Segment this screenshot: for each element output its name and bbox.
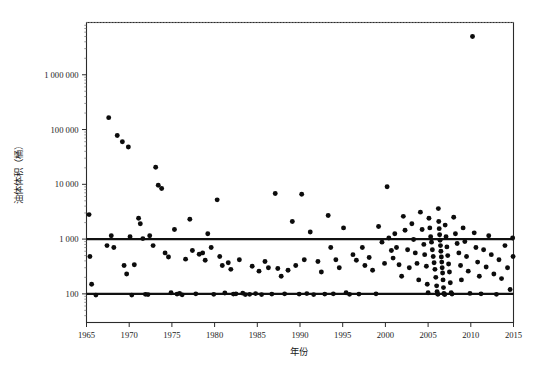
data-point [217, 254, 222, 259]
data-point [124, 272, 129, 277]
data-point [411, 237, 416, 242]
data-point [409, 221, 414, 226]
data-point [462, 239, 467, 244]
data-point [479, 291, 484, 296]
data-point [290, 219, 295, 224]
data-point [458, 263, 463, 268]
data-point [153, 165, 158, 170]
data-point [503, 243, 508, 248]
x-axis-title: 年份 [290, 346, 309, 357]
data-point [129, 293, 134, 298]
data-point [211, 292, 216, 297]
data-point [426, 290, 431, 295]
data-point [436, 219, 441, 224]
data-point [140, 236, 145, 241]
data-point [374, 291, 379, 296]
data-point [159, 186, 164, 191]
data-point [453, 231, 458, 236]
x-axis-tick-label: 2000 [377, 330, 394, 340]
x-axis-tick-label: 2005 [420, 330, 437, 340]
data-point [172, 227, 177, 232]
data-point [169, 290, 174, 295]
data-point [259, 292, 264, 297]
data-point [450, 292, 455, 297]
data-point [399, 274, 404, 279]
data-point [297, 292, 302, 297]
data-point [286, 268, 291, 273]
data-point [429, 240, 434, 245]
data-point [418, 210, 423, 215]
data-point [376, 224, 381, 229]
x-axis-tick-label: 1965 [78, 330, 95, 340]
data-point [328, 245, 333, 250]
data-point [282, 291, 287, 296]
data-point [481, 247, 486, 252]
data-point [385, 184, 390, 189]
data-point [337, 265, 342, 270]
data-point [193, 291, 198, 296]
data-point [494, 292, 499, 297]
data-point [405, 247, 410, 252]
data-point [226, 260, 231, 265]
data-point [511, 254, 516, 259]
data-point [111, 245, 116, 250]
data-point [138, 221, 143, 226]
data-point [128, 234, 133, 239]
data-point [435, 292, 440, 297]
y-axis-title: 油体体积（桶） [13, 141, 24, 204]
data-point [333, 257, 338, 262]
data-point [505, 265, 510, 270]
data-point [391, 256, 396, 261]
data-point [415, 261, 420, 266]
data-point [407, 265, 412, 270]
data-point [109, 233, 114, 238]
data-point [473, 245, 478, 250]
data-point [438, 249, 443, 254]
data-point [302, 257, 307, 262]
data-point [389, 248, 394, 253]
data-point [203, 258, 208, 263]
data-point [470, 34, 475, 39]
data-point [222, 290, 227, 295]
data-point [269, 292, 274, 297]
data-point [424, 264, 429, 269]
data-point [439, 255, 444, 260]
data-point [347, 292, 352, 297]
chart-canvas: 1001 00010 000100 0001 000 0001965197019… [0, 0, 537, 372]
data-point [132, 262, 137, 267]
y-axis-tick-label: 100 [66, 289, 79, 299]
data-point [250, 264, 255, 269]
data-point [443, 223, 448, 228]
data-point [166, 255, 171, 260]
data-point [444, 244, 449, 249]
data-point [120, 139, 125, 144]
x-axis-tick-label: 2015 [505, 330, 522, 340]
data-point [397, 262, 402, 267]
data-point [136, 216, 141, 221]
data-point [466, 269, 471, 274]
x-axis-tick-label: 1980 [206, 330, 223, 340]
data-point [87, 254, 92, 259]
data-point [304, 291, 309, 296]
y-axis-tick-label: 1 000 000 [44, 70, 78, 80]
data-point [425, 282, 430, 287]
data-point [187, 217, 192, 222]
data-point [422, 252, 427, 257]
data-point [263, 259, 268, 264]
data-point [428, 234, 433, 239]
data-point [508, 287, 513, 292]
data-point [311, 292, 316, 297]
data-point [180, 292, 185, 297]
data-point [326, 213, 331, 218]
data-point [322, 292, 327, 297]
data-point [247, 292, 252, 297]
data-point [266, 265, 271, 270]
data-point [220, 263, 225, 268]
data-point [215, 197, 220, 202]
data-point [430, 247, 435, 252]
data-point [489, 252, 494, 257]
data-point [115, 133, 120, 138]
data-point [126, 145, 131, 150]
data-point [89, 282, 94, 287]
data-point [362, 263, 367, 268]
